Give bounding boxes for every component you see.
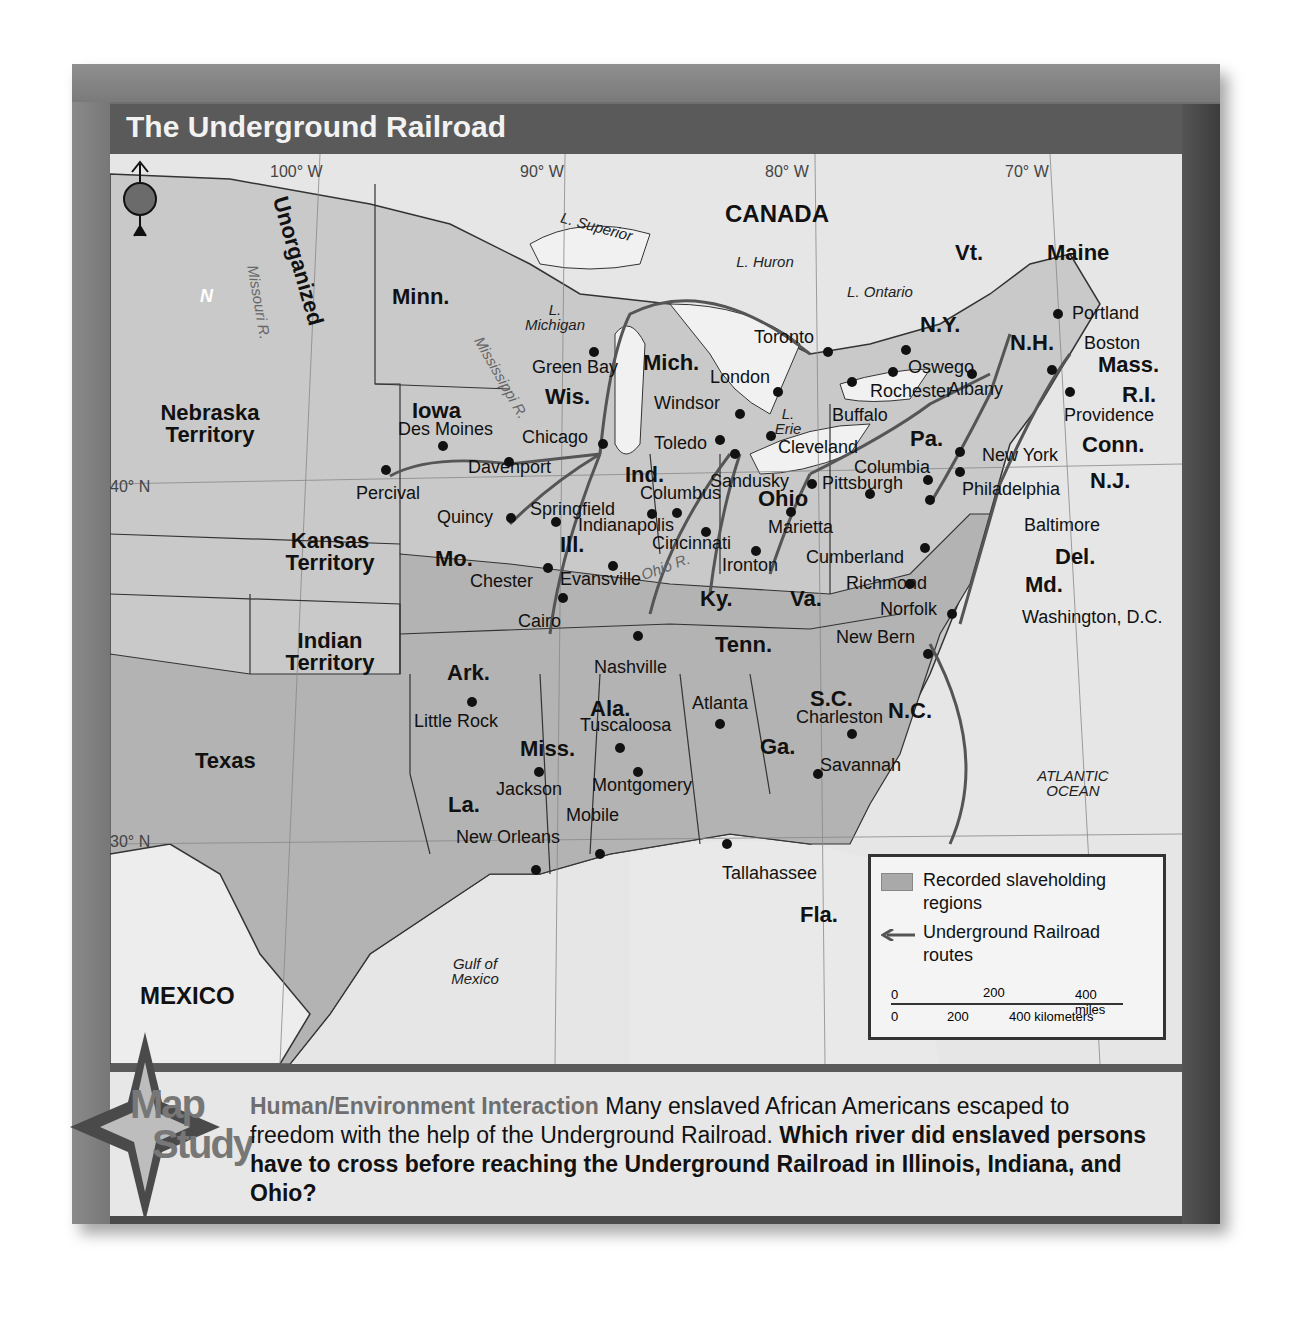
city-label: New Bern (836, 628, 915, 646)
legend-slaveholding-label: Recorded slaveholding regions (923, 869, 1153, 915)
sea-label: Gulf of Mexico (435, 956, 515, 986)
city-dot-icon (925, 495, 935, 505)
city-label: Washington, D.C. (1022, 608, 1162, 626)
city-dot-icon (807, 479, 817, 489)
state-label: Mich. (643, 352, 699, 374)
city-label: Windsor (654, 394, 720, 412)
state-label: Ga. (760, 736, 795, 758)
city-label: Little Rock (414, 712, 498, 730)
city-dot-icon (595, 849, 605, 859)
badge-map-word: Map (130, 1082, 204, 1127)
city-label: Indianapolis (578, 516, 674, 534)
state-label: Vt. (955, 242, 983, 264)
city-label: Boston (1084, 334, 1140, 352)
city-dot-icon (633, 631, 643, 641)
city-dot-icon (467, 697, 477, 707)
study-heading: Human/Environment Interaction (250, 1093, 599, 1119)
city-label: Toronto (754, 328, 814, 346)
city-dot-icon (615, 743, 625, 753)
state-label: N.H. (1010, 332, 1054, 354)
longitude-label: 90° W (520, 164, 564, 180)
city-label: Richmond (846, 574, 927, 592)
state-label: Fla. (800, 904, 838, 926)
state-label: Ohio (758, 488, 808, 510)
scale-km-200: 200 (947, 1009, 969, 1024)
state-label: Texas (195, 750, 256, 772)
country-label: MEXICO (140, 984, 235, 1008)
city-label: London (710, 368, 770, 386)
latitude-label: 40° N (110, 479, 150, 495)
city-dot-icon (901, 345, 911, 355)
city-label: Des Moines (398, 420, 493, 438)
city-dot-icon (715, 719, 725, 729)
city-label: Philadelphia (962, 480, 1060, 498)
scale-km-0: 0 (891, 1009, 898, 1024)
scale-km-400: 400 kilometers (1009, 1009, 1094, 1024)
city-label: Tuscaloosa (580, 716, 671, 734)
city-dot-icon (672, 508, 682, 518)
longitude-label: 80° W (765, 164, 809, 180)
city-dot-icon (967, 369, 977, 379)
city-label: Nashville (594, 658, 667, 676)
north-arrow-icon (110, 154, 170, 244)
state-label: Pa. (910, 428, 943, 450)
map-canvas: 100° W 90° W 80° W 70° W 40° N 30° N CAN… (110, 154, 1182, 1064)
city-dot-icon (865, 489, 875, 499)
legend-routes-label: Underground Railroad routes (923, 921, 1153, 967)
state-label: N.C. (888, 700, 932, 722)
state-label: Ark. (447, 662, 490, 684)
lake-label: L. Michigan (520, 302, 590, 332)
city-label: Jackson (496, 780, 562, 798)
city-label: Pittsburgh (822, 474, 903, 492)
city-label: Sandusky (710, 472, 789, 490)
slaveholding-swatch-icon (881, 873, 913, 891)
city-label: Savannah (820, 756, 901, 774)
city-dot-icon (786, 507, 796, 517)
city-dot-icon (766, 431, 776, 441)
city-dot-icon (1047, 365, 1057, 375)
city-dot-icon (381, 465, 391, 475)
territory-label: Kansas Territory (275, 530, 385, 574)
state-label: Ky. (700, 588, 733, 610)
city-dot-icon (438, 441, 448, 451)
scale-miles-0: 0 (891, 987, 898, 1002)
longitude-label: 70° W (1005, 164, 1049, 180)
city-label: New York (982, 446, 1058, 464)
city-dot-icon (823, 347, 833, 357)
lake-label: L. Huron (735, 254, 795, 269)
lake-label: L. Ontario (845, 284, 915, 299)
city-label: Columbus (640, 484, 721, 502)
state-label: Del. (1055, 546, 1095, 568)
city-dot-icon (847, 729, 857, 739)
city-dot-icon (531, 865, 541, 875)
scale-miles-200: 200 (983, 985, 1005, 1000)
state-label: N.J. (1090, 470, 1130, 492)
map-title: The Underground Railroad (126, 110, 506, 144)
city-label: Mobile (566, 806, 619, 824)
city-label: Atlanta (692, 694, 748, 712)
badge-study-word: Study (152, 1122, 253, 1167)
city-label: Charleston (796, 708, 883, 726)
state-label: Miss. (520, 738, 575, 760)
city-dot-icon (558, 593, 568, 603)
city-dot-icon (715, 435, 725, 445)
city-label: Providence (1064, 406, 1154, 424)
city-label: Portland (1072, 304, 1139, 322)
state-label: Va. (790, 588, 822, 610)
frame-right-edge (1182, 104, 1220, 1224)
state-label: N.Y. (920, 314, 960, 336)
frame-bottom (110, 1216, 1182, 1224)
state-label: R.I. (1122, 384, 1156, 406)
route-arrow-icon (881, 929, 915, 941)
city-label: Cincinnati (652, 534, 731, 552)
city-dot-icon (947, 609, 957, 619)
city-label: Toledo (654, 434, 707, 452)
territory-label: Nebraska Territory (135, 402, 285, 446)
city-label: New Orleans (456, 828, 560, 846)
city-label: Tallahassee (722, 864, 817, 882)
state-label: Maine (1047, 242, 1109, 264)
city-dot-icon (920, 543, 930, 553)
city-label: Baltimore (1024, 516, 1100, 534)
city-dot-icon (888, 367, 898, 377)
state-label: Minn. (392, 286, 449, 308)
